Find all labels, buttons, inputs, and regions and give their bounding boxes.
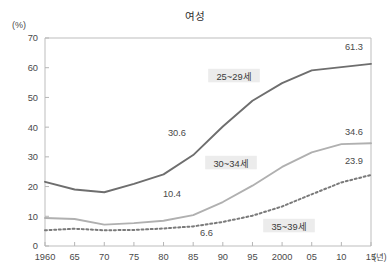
x-tick-label: 2000 — [272, 252, 293, 262]
data-value-label: 34.6 — [345, 127, 363, 137]
series-label-text: 30~34세 — [213, 159, 248, 169]
series-label-text: 25~29세 — [216, 72, 251, 82]
y-tick-label: 70 — [28, 33, 38, 43]
series-name-labels: 25~29세30~34세35~39세 — [205, 69, 315, 233]
x-tick-label: 10 — [336, 252, 346, 262]
series-line — [45, 64, 371, 192]
data-value-label: 23.9 — [345, 156, 363, 166]
x-tick-label: 75 — [129, 252, 139, 262]
y-tick-label: 10 — [28, 212, 38, 222]
x-axis-unit-text: (년) — [373, 252, 387, 262]
data-value-label: 6.6 — [200, 228, 213, 238]
chart-series-lines — [45, 64, 371, 230]
data-value-label: 61.3 — [345, 42, 363, 52]
x-tick-label: 65 — [69, 252, 79, 262]
line-chart-plot: 010203040506070 196065707580859095200005… — [0, 0, 390, 279]
x-tick-label: 90 — [218, 252, 228, 262]
x-axis-unit-label: (년) — [373, 252, 387, 262]
y-tick-label: 0 — [33, 241, 38, 251]
data-value-labels: 61.330.634.610.423.96.6 — [163, 42, 363, 238]
y-tick-label: 20 — [28, 182, 38, 192]
x-tick-label: 80 — [158, 252, 168, 262]
y-tick-label: 60 — [28, 63, 38, 73]
y-tick-label: 30 — [28, 152, 38, 162]
series-line — [45, 143, 371, 224]
x-tick-label: 70 — [99, 252, 109, 262]
x-axis-ticks: 1960657075808590952000051015 — [35, 242, 377, 262]
x-tick-label: 85 — [188, 252, 198, 262]
data-value-label: 10.4 — [163, 189, 181, 199]
x-tick-label: 05 — [307, 252, 317, 262]
y-tick-label: 50 — [28, 93, 38, 103]
chart-container: 여성 (%) 010203040506070 19606570758085909… — [0, 0, 390, 279]
series-label-text: 35~39세 — [271, 222, 306, 232]
data-value-label: 30.6 — [168, 128, 186, 138]
x-tick-label: 1960 — [35, 252, 56, 262]
y-tick-label: 40 — [28, 123, 38, 133]
x-tick-label: 95 — [247, 252, 257, 262]
